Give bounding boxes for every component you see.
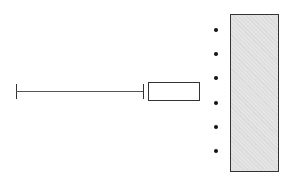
dot-2 — [214, 52, 218, 56]
diagram-canvas — [0, 0, 292, 182]
dot-3 — [214, 76, 218, 80]
right-end-cap — [143, 84, 144, 99]
dot-1 — [214, 28, 218, 32]
horizontal-line — [16, 91, 143, 92]
dot-5 — [214, 125, 218, 129]
small-rectangle — [148, 82, 200, 101]
dot-6 — [214, 149, 218, 153]
tall-shaded-rectangle — [230, 14, 279, 172]
dot-4 — [214, 101, 218, 105]
